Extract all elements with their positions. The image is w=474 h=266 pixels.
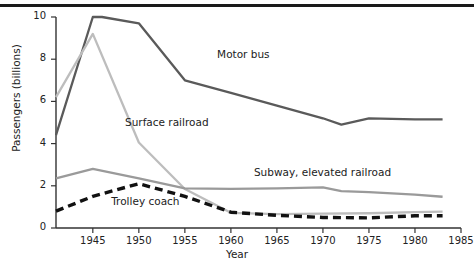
series-line — [56, 34, 443, 214]
series-annotation: Trolley coach — [111, 195, 179, 207]
series-annotation: Surface railroad — [125, 116, 209, 128]
y-tick-label: 2 — [12, 179, 46, 190]
x-axis-title: Year — [0, 248, 474, 260]
x-tick-label: 1975 — [349, 235, 389, 246]
chart-figure: 0246810194519501955196019651970197519801… — [0, 0, 474, 266]
y-tick-label: 10 — [12, 10, 46, 21]
series-annotation: Motor bus — [217, 48, 269, 60]
y-axis-title: Passengers (billions) — [10, 38, 22, 158]
x-tick-label: 1980 — [395, 235, 435, 246]
x-tick-label: 1955 — [165, 235, 205, 246]
x-tick-label: 1960 — [211, 235, 251, 246]
y-tick-label: 0 — [12, 221, 46, 232]
series-annotation: Subway, elevated railroad — [254, 166, 391, 178]
x-tick-label: 1950 — [119, 235, 159, 246]
x-tick-label: 1945 — [73, 235, 113, 246]
line-chart-plot — [0, 0, 474, 266]
x-tick-label: 1970 — [303, 235, 343, 246]
x-tick-label: 1985 — [441, 235, 474, 246]
x-tick-label: 1965 — [257, 235, 297, 246]
series-line — [56, 17, 443, 135]
